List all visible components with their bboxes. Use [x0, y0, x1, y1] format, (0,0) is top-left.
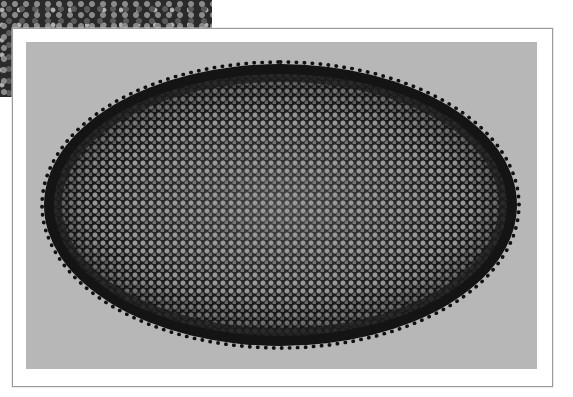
- rug-photo: [26, 42, 537, 369]
- oval-braided-rug: [44, 64, 517, 346]
